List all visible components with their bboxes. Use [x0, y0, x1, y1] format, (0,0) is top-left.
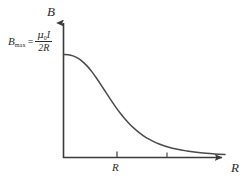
magnetic-field-vs-distance-figure: B R R Bmax = μ0I 2R — [0, 0, 252, 184]
current-symbol: I — [47, 29, 50, 40]
x-axis-label: R — [231, 161, 239, 174]
mu-fraction: μ0I 2R — [35, 30, 52, 53]
field-decay-curve — [64, 54, 226, 154]
y-axis-label: B — [47, 5, 55, 18]
fraction-denominator: 2R — [36, 42, 51, 53]
mu-symbol: μ — [37, 29, 44, 40]
bmax-formula-label: Bmax = μ0I 2R — [8, 30, 52, 53]
bmax-subscript: max — [15, 42, 26, 48]
equals-sign: = — [28, 37, 34, 47]
plot-canvas — [0, 0, 252, 184]
fraction-numerator: μ0I — [35, 30, 52, 41]
mu-subscript: 0 — [44, 35, 47, 41]
bmax-symbol: Bmax — [8, 36, 26, 47]
x-tick-label-r: R — [112, 162, 119, 173]
